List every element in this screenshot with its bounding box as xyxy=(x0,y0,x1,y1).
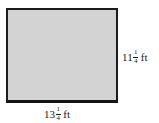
rectangle-figure: 1114ft 1314ft xyxy=(0,0,159,123)
height-dimension-label: 1114ft xyxy=(122,49,148,65)
height-fraction: 14 xyxy=(133,49,138,65)
height-fraction-numerator: 1 xyxy=(133,49,138,57)
height-unit: ft xyxy=(141,52,148,63)
width-fraction-denominator: 4 xyxy=(56,115,61,123)
height-whole-number: 11 xyxy=(122,52,133,63)
width-whole-number: 13 xyxy=(44,109,55,120)
width-dimension-label: 1314ft xyxy=(44,106,70,122)
height-measurement: 1114ft xyxy=(122,49,148,65)
height-fraction-denominator: 4 xyxy=(133,58,138,66)
width-fraction: 14 xyxy=(56,106,61,122)
shaded-rectangle xyxy=(6,8,118,103)
width-fraction-numerator: 1 xyxy=(56,106,61,114)
width-measurement: 1314ft xyxy=(44,106,70,122)
width-unit: ft xyxy=(63,109,70,120)
